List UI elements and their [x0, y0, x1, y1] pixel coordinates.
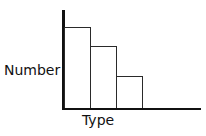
bar-3	[116, 76, 143, 109]
bar-2	[90, 46, 117, 109]
y-axis-label: Number	[4, 62, 60, 78]
x-axis-label: Type	[82, 112, 114, 128]
x-axis-line	[62, 108, 201, 110]
bar-1	[64, 27, 91, 109]
bar-chart: Number Type	[0, 0, 206, 136]
